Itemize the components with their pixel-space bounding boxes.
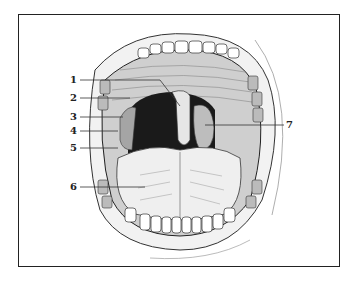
- label-7: 7: [286, 120, 293, 130]
- mouth-illustration: [0, 0, 358, 283]
- label-1: 1: [70, 75, 77, 85]
- label-3: 3: [70, 112, 77, 122]
- label-5: 5: [70, 143, 77, 153]
- label-6: 6: [70, 182, 77, 192]
- label-2: 2: [70, 93, 77, 103]
- label-4: 4: [70, 126, 77, 136]
